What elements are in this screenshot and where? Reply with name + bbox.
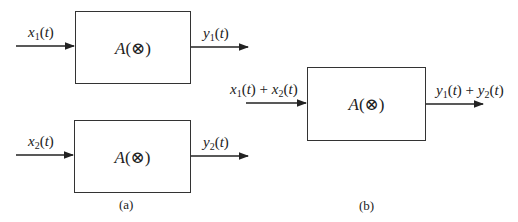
system-block-a1: A(⊗) <box>75 11 191 84</box>
input-signal-x1: x1(t) <box>28 24 54 42</box>
system-block-a2: A(⊗) <box>74 120 191 193</box>
input-signal-x2: x2(t) <box>28 133 54 151</box>
system-block-b: A(⊗) <box>307 67 426 141</box>
caption-a: (a) <box>119 197 133 213</box>
output-signal-y1: y1(t) <box>203 25 229 43</box>
output-signal-y2: y2(t) <box>203 134 229 152</box>
caption-b: (b) <box>359 198 374 214</box>
block-label: A(⊗) <box>308 94 425 115</box>
block-label: A(⊗) <box>75 146 190 167</box>
output-signal-sum: y1(t) + y2(t) <box>436 82 504 100</box>
block-label: A(⊗) <box>76 37 190 58</box>
input-signal-sum: x1(t) + x2(t) <box>230 81 298 99</box>
